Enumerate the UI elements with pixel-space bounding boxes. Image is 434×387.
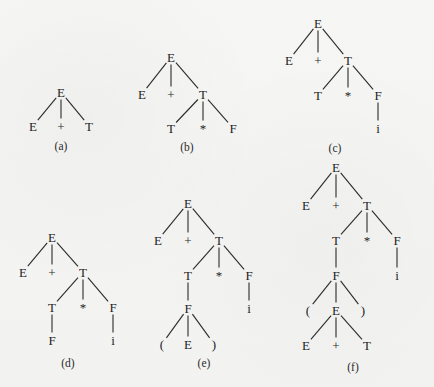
tree-node-rparen: ) — [212, 337, 216, 352]
tree-node-e: E — [314, 16, 322, 31]
tree-node-e: E — [48, 230, 56, 245]
tree-edge — [193, 246, 214, 270]
tree-node-t: T — [363, 338, 371, 353]
tree-edge — [66, 98, 84, 120]
tree-node-lparen: ( — [306, 303, 310, 318]
tree-node-f: F — [393, 233, 400, 248]
tree-node-t: T — [48, 300, 56, 315]
tree-node-t: T — [363, 198, 371, 213]
parse-tree-a: EE+T(a) — [29, 85, 93, 154]
tree-node-f: F — [48, 333, 55, 348]
tree-edge — [88, 278, 108, 302]
tree-node-e: E — [302, 338, 310, 353]
tree-edge — [57, 278, 78, 302]
tree-edge — [311, 173, 332, 199]
tree-node-e: E — [285, 53, 293, 68]
tree-caption: (a) — [55, 140, 68, 153]
tree-node-f: F — [332, 268, 339, 283]
tree-node-e: E — [332, 303, 340, 318]
tree-caption: (d) — [61, 357, 75, 370]
tree-node-times: * — [80, 300, 87, 315]
tree-edge — [311, 316, 331, 340]
tree-edge — [313, 281, 332, 304]
tree-node-plus: + — [332, 338, 339, 353]
tree-node-e: E — [184, 196, 192, 211]
tree-node-e: E — [29, 119, 37, 134]
parse-tree-e: EE+TT*FFi(E)(e) — [154, 196, 253, 371]
tree-edge — [294, 29, 314, 54]
tree-edge — [341, 211, 362, 235]
tree-node-t: T — [344, 53, 352, 68]
tree-node-e: E — [302, 198, 310, 213]
tree-node-t: T — [167, 121, 175, 136]
tree-node-e: E — [332, 160, 340, 175]
tree-node-plus: + — [314, 53, 321, 68]
tree-node-f: F — [245, 268, 252, 283]
tree-edge — [166, 314, 183, 338]
parse-tree-c: EE+TT*Fi(c) — [285, 16, 382, 156]
tree-caption: (f) — [347, 361, 359, 374]
tree-node-i: i — [111, 333, 115, 348]
tree-caption: (b) — [180, 141, 194, 154]
tree-node-i: i — [376, 121, 380, 136]
tree-node-f: F — [374, 88, 381, 103]
tree-node-i: i — [395, 268, 399, 283]
tree-edge — [57, 243, 78, 267]
tree-node-t: T — [79, 265, 87, 280]
tree-node-t: T — [332, 233, 340, 248]
tree-node-t: T — [184, 268, 192, 283]
tree-edge — [147, 63, 167, 88]
tree-node-e: E — [184, 337, 192, 352]
tree-node-plus: + — [332, 198, 339, 213]
parse-tree-f: EE+TT*FFi(E)E+T(f) — [302, 160, 401, 375]
tree-edge — [341, 281, 359, 304]
parse-tree-d: EE+TT*FFi(d) — [19, 230, 117, 371]
tree-node-t: T — [85, 119, 93, 134]
tree-node-t: T — [199, 87, 207, 102]
tree-node-times: * — [364, 233, 371, 248]
tree-edge — [323, 29, 344, 54]
tree-node-times: * — [345, 88, 352, 103]
tree-node-i: i — [247, 301, 251, 316]
tree-edge — [341, 173, 363, 199]
tree-edge — [38, 98, 56, 120]
tree-node-f: F — [229, 121, 236, 136]
tree-node-times: * — [216, 268, 223, 283]
tree-edge — [372, 211, 392, 235]
tree-edge — [353, 66, 373, 90]
tree-node-e: E — [19, 265, 27, 280]
tree-node-e: E — [57, 85, 65, 100]
parse-tree-figure: EE+T(a) EE+TT*F(b) EE+TT*Fi(c) EE+TT*FFi… — [0, 0, 434, 387]
tree-node-e: E — [138, 87, 146, 102]
tree-node-t: T — [314, 88, 322, 103]
tree-node-times: * — [200, 121, 207, 136]
tree-edge — [176, 100, 198, 123]
tree-node-plus: + — [167, 87, 174, 102]
tree-node-rparen: ) — [361, 303, 365, 318]
tree-edge — [176, 63, 198, 89]
tree-edge — [192, 314, 209, 338]
tree-node-t: T — [215, 233, 223, 248]
tree-node-f: F — [184, 301, 191, 316]
tree-edge — [28, 243, 47, 266]
parse-tree-b: EE+TT*F(b) — [138, 50, 237, 155]
tree-edge — [323, 66, 343, 90]
tree-node-e: E — [167, 50, 175, 65]
tree-node-plus: + — [57, 119, 64, 134]
tree-edge — [193, 209, 214, 235]
tree-edge — [341, 316, 362, 340]
tree-caption: (c) — [329, 142, 342, 155]
tree-caption: (e) — [198, 357, 211, 370]
tree-node-f: F — [109, 300, 116, 315]
tree-edge — [163, 209, 184, 234]
tree-node-plus: + — [184, 233, 191, 248]
tree-edge — [224, 246, 244, 270]
tree-edge — [208, 100, 228, 123]
tree-node-plus: + — [48, 265, 55, 280]
tree-node-lparen: ( — [160, 337, 164, 352]
tree-node-e: E — [154, 233, 162, 248]
